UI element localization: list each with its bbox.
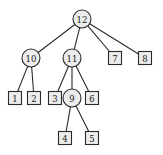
tree-node-8[interactable]: 8 <box>139 52 152 65</box>
node-label-3: 3 <box>52 94 57 104</box>
tree-edge-11-3 <box>58 66 69 91</box>
tree-edge-11-6 <box>76 66 89 91</box>
tree-node-4[interactable]: 4 <box>59 132 72 145</box>
tree-node-6[interactable]: 6 <box>86 92 99 105</box>
tree-edge-9-4 <box>66 107 70 132</box>
node-label-9: 9 <box>69 94 74 104</box>
node-label-4: 4 <box>62 134 67 144</box>
node-label-12: 12 <box>77 15 88 25</box>
node-label-11: 11 <box>67 54 78 64</box>
tree-node-11[interactable]: 11 <box>63 49 81 67</box>
tree-edge-10-1 <box>18 66 28 91</box>
node-label-2: 2 <box>31 94 36 104</box>
tree-node-2[interactable]: 2 <box>28 92 41 105</box>
tree-diagram: 121011781239645 <box>0 0 163 155</box>
node-label-7: 7 <box>112 54 117 64</box>
tree-node-12[interactable]: 12 <box>73 10 91 28</box>
tree-node-7[interactable]: 7 <box>109 52 122 65</box>
tree-edge-12-11 <box>74 28 80 50</box>
nodes-layer: 121011781239645 <box>9 10 152 145</box>
node-label-6: 6 <box>89 94 94 104</box>
node-label-10: 10 <box>26 54 37 64</box>
node-label-1: 1 <box>12 94 17 104</box>
tree-diagram-canvas: 121011781239645 <box>0 0 163 155</box>
tree-node-3[interactable]: 3 <box>49 92 62 105</box>
tree-node-9[interactable]: 9 <box>63 89 81 107</box>
node-label-8: 8 <box>142 54 147 64</box>
tree-edge-12-8 <box>90 24 139 54</box>
tree-node-5[interactable]: 5 <box>86 132 99 145</box>
tree-node-1[interactable]: 1 <box>9 92 22 105</box>
tree-edge-10-2 <box>32 67 34 92</box>
tree-edge-12-10 <box>38 24 75 52</box>
edges-layer <box>18 24 139 132</box>
tree-node-10[interactable]: 10 <box>22 49 40 67</box>
node-label-5: 5 <box>89 134 94 144</box>
tree-edge-9-5 <box>76 106 89 131</box>
